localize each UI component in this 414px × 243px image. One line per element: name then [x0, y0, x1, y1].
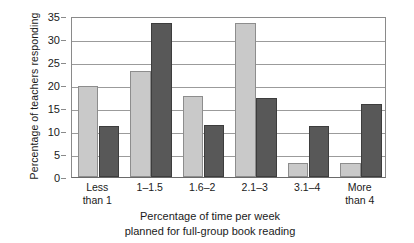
y-tick-label: 35: [48, 12, 60, 23]
y-tick-mark: [61, 178, 66, 179]
x-tick-label-line1: 3.1–4: [294, 181, 320, 193]
y-tick-label: 10: [48, 127, 60, 138]
bar: [183, 96, 204, 177]
bar-group: [177, 18, 230, 177]
bar-group: [282, 18, 335, 177]
y-tick-mark: [61, 40, 66, 41]
x-tick-label: Lessthan 1: [71, 181, 124, 207]
y-tick-label: 25: [48, 58, 60, 69]
y-tick-mark: [61, 132, 66, 133]
x-tick-label: Morethan 4: [334, 181, 387, 207]
y-tick-mark: [61, 109, 66, 110]
y-tick-mark: [61, 155, 66, 156]
bar: [340, 163, 361, 177]
bar-group: [125, 18, 178, 177]
bar: [288, 163, 309, 177]
x-tick-label-line1: 1–1.5: [137, 181, 163, 193]
plot-area: [71, 17, 386, 178]
bar: [204, 125, 225, 177]
bar: [78, 86, 99, 177]
bar-group: [72, 18, 125, 177]
x-tick-label-line1: Less: [86, 181, 108, 193]
x-tick-label: 2.1–3: [229, 181, 282, 194]
y-axis-ticks: 05101520253035: [0, 17, 66, 178]
bar: [309, 126, 330, 177]
x-tick-label-line1: More: [348, 181, 372, 193]
y-tick-mark: [61, 63, 66, 64]
x-tick-label-line1: 2.1–3: [242, 181, 268, 193]
y-tick-label: 15: [48, 104, 60, 115]
x-tick-label: 3.1–4: [281, 181, 334, 194]
x-axis-title-line1: Percentage of time per week: [40, 209, 380, 224]
bar: [99, 126, 120, 177]
bars-layer: [72, 18, 385, 177]
x-tick-label: 1–1.5: [124, 181, 177, 194]
bar: [130, 71, 151, 177]
y-tick-mark: [61, 17, 66, 18]
x-tick-label-line2: than 1: [71, 194, 124, 207]
x-tick-label-line1: 1.6–2: [189, 181, 215, 193]
x-axis-title: Percentage of time per week planned for …: [40, 209, 380, 238]
y-tick-label: 5: [54, 150, 60, 161]
bar: [235, 23, 256, 177]
x-tick-label-line2: than 4: [334, 194, 387, 207]
bar: [256, 98, 277, 177]
y-tick-label: 20: [48, 81, 60, 92]
y-tick-label: 0: [54, 173, 60, 184]
bar-group: [230, 18, 283, 177]
x-axis-title-line2: planned for full-group book reading: [40, 224, 380, 239]
bar-chart: Percentage of teachers responding 051015…: [0, 0, 414, 243]
bar: [361, 104, 382, 177]
bar-group: [335, 18, 388, 177]
y-tick-mark: [61, 86, 66, 87]
y-tick-label: 30: [48, 35, 60, 46]
x-tick-label: 1.6–2: [176, 181, 229, 194]
bar: [151, 23, 172, 177]
